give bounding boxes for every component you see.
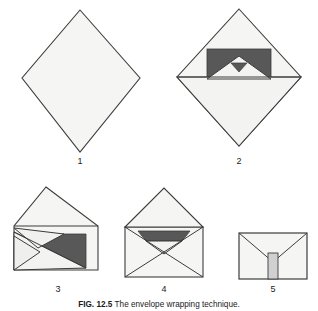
panel-4-both-side-flaps-folded-in: 4 <box>118 184 210 300</box>
wrapped-item <box>138 231 190 241</box>
panel-2-illustration <box>174 6 304 156</box>
panel-2-bottom-corner-folded-over-item: 2 <box>174 6 304 172</box>
figure-caption: FIG. 12.5 The envelope wrapping techniqu… <box>0 299 318 310</box>
panel-4-number: 4 <box>118 284 210 295</box>
open-top-flap <box>125 188 203 227</box>
panel-1-illustration <box>16 6 144 156</box>
panel-3-left-side-flap-folded-in: 3 <box>8 184 108 300</box>
tape-strip <box>268 253 278 279</box>
panel-5-illustration <box>236 230 310 284</box>
panel-5-number: 5 <box>236 284 310 295</box>
panel-3-illustration <box>8 184 108 284</box>
figure-caption-label: FIG. 12.5 <box>78 300 112 309</box>
wrapping-paper-sheet <box>22 10 140 152</box>
panel-3-number: 3 <box>8 284 108 295</box>
figure-caption-text: The envelope wrapping technique. <box>115 300 240 309</box>
panel-1-number: 1 <box>16 156 144 167</box>
panel-2-number: 2 <box>174 156 304 167</box>
panel-4-illustration <box>118 184 210 284</box>
figure-envelope-wrapping-technique: 1 2 <box>0 0 318 311</box>
panel-5-top-flap-closed-and-taped: 5 <box>236 230 310 300</box>
panel-1-flat-wrap-diamond: 1 <box>16 6 144 172</box>
bottom-flap-folded-up <box>177 77 301 146</box>
